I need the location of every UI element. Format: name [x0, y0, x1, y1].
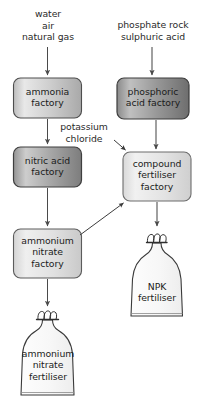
input-label-phosphoric-feedstock: phosphate rock sulphuric acid — [104, 19, 202, 42]
diagram-canvas — [0, 0, 206, 408]
input-label-potassium-chloride: potassium chloride — [53, 121, 115, 144]
process-box-ammonia-factory — [14, 78, 82, 118]
arrow-ammonium-nitrate-to-compound — [80, 203, 124, 235]
process-box-nitric-acid-factory — [14, 147, 82, 187]
arrow-potassium-chloride-to-compound — [114, 140, 126, 150]
input-label-ammonia-feedstock: water air natural gas — [7, 8, 89, 43]
process-box-phosphoric-acid-factory — [117, 78, 189, 119]
process-box-compound-fertiliser-factory — [123, 152, 191, 201]
sack-ammonium-nitrate-fertiliser — [21, 311, 74, 395]
process-box-ammonium-nitrate-factory — [14, 229, 82, 278]
sack-npk-fertiliser — [131, 234, 183, 316]
fertiliser-flow-diagram: water air natural gas phosphate rock sul… — [0, 0, 206, 408]
